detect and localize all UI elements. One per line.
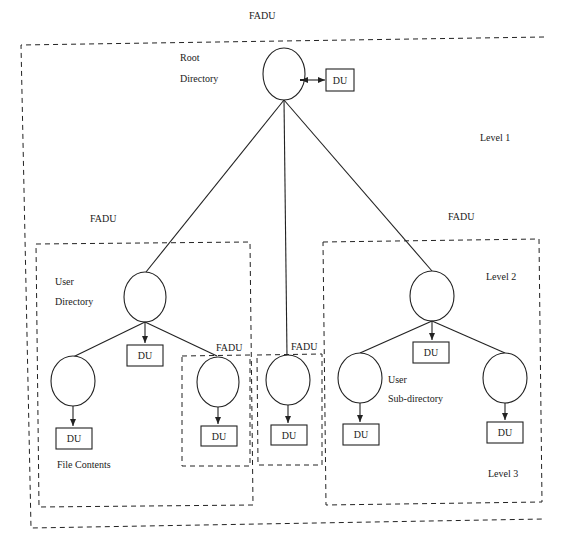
left-fadu-label: FADU	[90, 213, 117, 224]
sub-directory-label-line1: User	[388, 374, 408, 385]
file-node	[51, 356, 95, 406]
user-directory-node	[124, 272, 166, 322]
outer-fadu-boundary	[21, 37, 544, 528]
sub-directory-label-line2: Sub-directory	[388, 393, 443, 404]
edge-root-to-middle-node	[284, 100, 287, 356]
root-label-line2: Directory	[180, 73, 218, 84]
user-directory-label-line1: User	[55, 276, 75, 287]
level-2-label: Level 2	[486, 271, 516, 282]
level-3-label: Level 3	[488, 468, 518, 479]
edge-root-to-user-directory	[146, 100, 284, 272]
right-fadu-label: FADU	[448, 211, 475, 222]
nested-du-label: DU	[212, 431, 227, 442]
file-du-label: DU	[67, 433, 82, 444]
middle-fadu-label: FADU	[291, 341, 318, 352]
right-leaf-du-label: DU	[498, 427, 513, 438]
middle-file-node	[266, 355, 310, 405]
right-directory-du-label: DU	[424, 347, 439, 358]
level-1-label: Level 1	[480, 132, 510, 143]
sub-directory-du-label: DU	[354, 429, 369, 440]
fadu-tree-diagram: FADU Root Directory DU Level 1 FADU User…	[0, 0, 565, 539]
middle-du-label: DU	[282, 430, 297, 441]
right-directory-node	[410, 271, 454, 321]
user-directory-label-line2: Directory	[55, 296, 93, 307]
right-leaf-node	[483, 353, 527, 403]
root-du-label: DU	[333, 75, 348, 86]
nested-fadu-label: FADU	[216, 342, 243, 353]
root-label-line1: Root	[180, 52, 200, 63]
outer-fadu-label: FADU	[249, 10, 276, 21]
root-directory-node	[263, 48, 305, 100]
sub-directory-node	[338, 353, 382, 403]
file-contents-label: File Contents	[57, 459, 111, 470]
edge-root-to-right-directory	[284, 100, 432, 271]
user-directory-du-label: DU	[138, 350, 153, 361]
nested-file-node	[197, 357, 239, 407]
